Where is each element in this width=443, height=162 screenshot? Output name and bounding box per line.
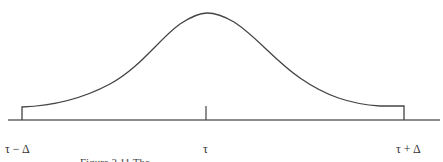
x-label-center: τ xyxy=(203,143,208,155)
density-curve xyxy=(22,13,404,120)
x-label-upper-bound: τ + Δ xyxy=(396,143,421,155)
density-plot xyxy=(0,0,443,162)
x-label-lower-bound: τ − Δ xyxy=(5,143,30,155)
truncated-density-figure: τ − Δ τ τ + Δ Figure 2.11 The xyxy=(0,0,443,162)
figure-caption: Figure 2.11 The xyxy=(80,157,150,162)
